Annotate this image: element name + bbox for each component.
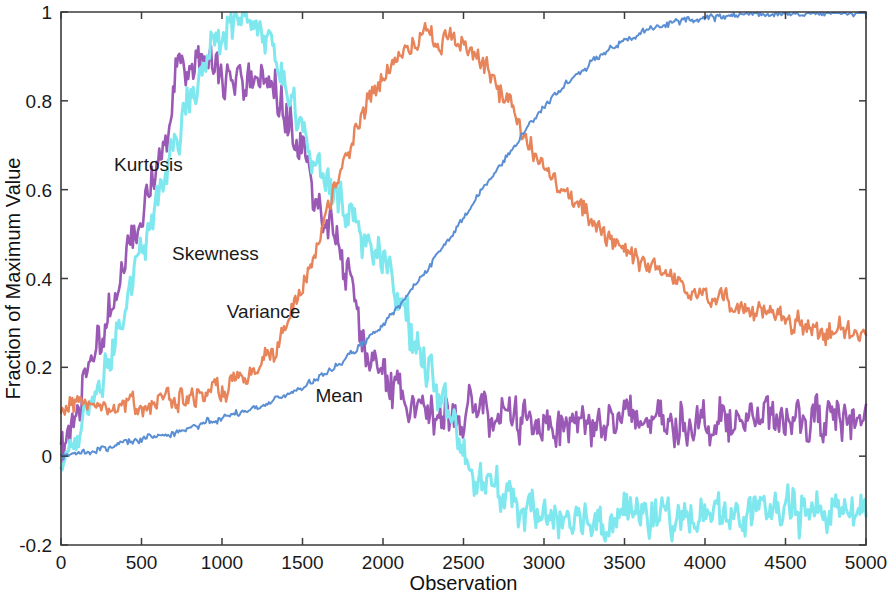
series-label-skewness: Skewness	[172, 243, 259, 264]
x-tick-label-1500: 1500	[281, 552, 323, 573]
tick-marks-group	[61, 12, 866, 545]
y-tick-label--0.2: -0.2	[19, 535, 52, 556]
x-tick-label-3000: 3000	[523, 552, 565, 573]
axis-titles-group: ObservationFraction of Maximum Value	[2, 158, 517, 594]
chart-plot-area: 0500100015002000250030003500400045005000…	[0, 0, 891, 601]
y-tick-label-0: 0	[41, 446, 52, 467]
series-label-kurtosis: Kurtosis	[114, 154, 183, 175]
x-tick-label-5000: 5000	[845, 552, 887, 573]
series-group	[61, 13, 866, 541]
x-tick-label-500: 500	[126, 552, 158, 573]
x-axis-title: Observation	[410, 572, 518, 594]
x-tick-label-0: 0	[56, 552, 67, 573]
x-tick-label-2500: 2500	[442, 552, 484, 573]
series-line-skewness	[61, 13, 866, 541]
y-tick-label-1: 1	[41, 2, 52, 23]
y-tick-label-0.8: 0.8	[26, 91, 52, 112]
axis-frame	[61, 12, 866, 545]
y-tick-label-0.4: 0.4	[26, 269, 53, 290]
y-axis-title: Fraction of Maximum Value	[2, 158, 24, 400]
y-tick-label-0.6: 0.6	[26, 180, 52, 201]
y-tick-label-0.2: 0.2	[26, 357, 52, 378]
x-tick-label-4500: 4500	[764, 552, 806, 573]
series-label-variance: Variance	[227, 301, 301, 322]
tick-labels-group: 0500100015002000250030003500400045005000…	[19, 2, 887, 573]
chart-figure: 0500100015002000250030003500400045005000…	[0, 0, 891, 601]
series-label-mean: Mean	[315, 385, 363, 406]
x-tick-label-1000: 1000	[201, 552, 243, 573]
x-tick-label-3500: 3500	[603, 552, 645, 573]
x-tick-label-2000: 2000	[362, 552, 404, 573]
plot-frame	[61, 12, 866, 545]
x-tick-label-4000: 4000	[684, 552, 726, 573]
